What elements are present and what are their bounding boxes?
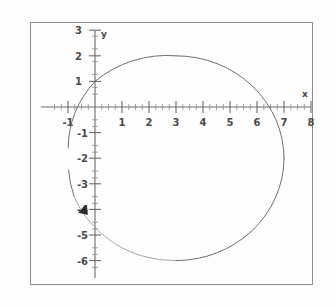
y-tick-label-neg1: -1 (77, 128, 88, 139)
x-tick-label-5: 5 (227, 117, 234, 128)
y-tick-label-2: 2 (75, 51, 82, 62)
y-axis-label: y (101, 29, 107, 39)
x-tick-label-8: 8 (308, 117, 315, 128)
circle-curve-upper-left (95, 55, 176, 81)
y-tick-label-neg6: -6 (77, 256, 88, 267)
x-tick-label-6: 6 (254, 117, 261, 128)
x-tick-label-2: 2 (146, 117, 153, 128)
x-tick-label-1: 1 (119, 117, 126, 128)
cartesian-plot-svg: -1 1 2 3 4 5 6 7 8 (0, 0, 336, 307)
y-tick-label-neg2: -2 (77, 153, 88, 164)
x-axis-label: x (302, 89, 308, 99)
x-tick-label-7: 7 (281, 117, 288, 128)
circle-curve-left-lower-break (69, 170, 74, 196)
y-tick-label-1: 1 (75, 76, 82, 87)
figure-root: -1 1 2 3 4 5 6 7 8 (0, 0, 336, 307)
scan-noise-layer (54, 60, 299, 251)
circle-curve-lower-right (176, 158, 284, 260)
x-tick-label-4: 4 (200, 117, 207, 128)
y-tick-label-3: 3 (75, 25, 82, 36)
y-axis-tick-labels: 3 2 1 -1 -2 -3 -4 -5 -6 (75, 25, 88, 267)
x-tick-label-3: 3 (173, 117, 180, 128)
circle-curve-lower-left (74, 196, 176, 261)
y-tick-label-neg3: -3 (77, 179, 88, 190)
y-tick-label-neg5: -5 (77, 230, 88, 241)
